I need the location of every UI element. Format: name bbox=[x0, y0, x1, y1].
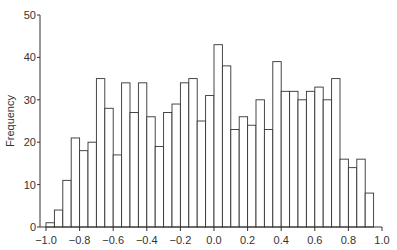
histogram-bar bbox=[105, 108, 113, 227]
histogram-bar bbox=[222, 66, 230, 227]
histogram-bar bbox=[180, 83, 188, 227]
histogram-bar bbox=[281, 91, 289, 227]
histogram-bar bbox=[214, 45, 222, 227]
histogram-bar bbox=[155, 146, 163, 227]
histogram-bar bbox=[264, 129, 272, 227]
histogram-bar bbox=[332, 79, 340, 227]
histogram-chart: 01020304050 −1.0−0.8−0.6−0.4−0.20.00.20.… bbox=[0, 0, 397, 250]
y-tick-label: 0 bbox=[30, 221, 36, 233]
y-tick-label: 40 bbox=[24, 51, 36, 63]
x-tick-label: 0.0 bbox=[206, 234, 221, 246]
histogram-bar bbox=[357, 159, 365, 227]
histogram-bar bbox=[71, 138, 79, 227]
x-tick-label: 0.6 bbox=[307, 234, 322, 246]
histogram-bar bbox=[147, 117, 155, 227]
x-tick-label: −0.6 bbox=[102, 234, 124, 246]
histogram-bar bbox=[197, 121, 205, 227]
x-tick-label: −0.4 bbox=[136, 234, 158, 246]
y-tick-label: 10 bbox=[24, 179, 36, 191]
histogram-bar bbox=[172, 104, 180, 227]
histogram-bar bbox=[113, 155, 121, 227]
histogram-bar bbox=[248, 125, 256, 227]
histogram-bar bbox=[54, 210, 62, 227]
histogram-bar bbox=[306, 91, 314, 227]
histogram-bar bbox=[80, 151, 88, 227]
y-axis-title: Frequency bbox=[4, 95, 16, 147]
histogram-bar bbox=[189, 79, 197, 227]
x-tick-label: −0.2 bbox=[170, 234, 192, 246]
y-tick-label: 20 bbox=[24, 136, 36, 148]
x-tick-label: 1.0 bbox=[374, 234, 389, 246]
histogram-bar bbox=[231, 129, 239, 227]
histogram-bar bbox=[256, 100, 264, 227]
histogram-bar bbox=[315, 87, 323, 227]
x-tick-label: −1.0 bbox=[35, 234, 57, 246]
histogram-bar bbox=[96, 79, 104, 227]
histogram-bar bbox=[239, 117, 247, 227]
x-axis-ticks: −1.0−0.8−0.6−0.4−0.20.00.20.40.60.81.0 bbox=[35, 227, 390, 246]
histogram-bar bbox=[88, 142, 96, 227]
y-tick-label: 30 bbox=[24, 94, 36, 106]
histogram-bar bbox=[298, 100, 306, 227]
histogram-bars bbox=[46, 45, 374, 227]
histogram-bar bbox=[323, 100, 331, 227]
histogram-bar bbox=[164, 113, 172, 227]
x-tick-label: −0.8 bbox=[69, 234, 91, 246]
y-axis-ticks: 01020304050 bbox=[24, 9, 40, 233]
histogram-bar bbox=[290, 91, 298, 227]
x-tick-label: 0.2 bbox=[240, 234, 255, 246]
histogram-bar bbox=[63, 180, 71, 227]
histogram-bar bbox=[46, 223, 54, 227]
y-tick-label: 50 bbox=[24, 9, 36, 21]
histogram-bar bbox=[130, 113, 138, 227]
histogram-bar bbox=[122, 83, 130, 227]
x-tick-label: 0.4 bbox=[274, 234, 289, 246]
histogram-bar bbox=[365, 193, 373, 227]
histogram-bar bbox=[273, 62, 281, 227]
histogram-bar bbox=[138, 83, 146, 227]
histogram-bar bbox=[206, 96, 214, 227]
x-tick-label: 0.8 bbox=[341, 234, 356, 246]
histogram-bar bbox=[348, 168, 356, 227]
histogram-bar bbox=[340, 159, 348, 227]
